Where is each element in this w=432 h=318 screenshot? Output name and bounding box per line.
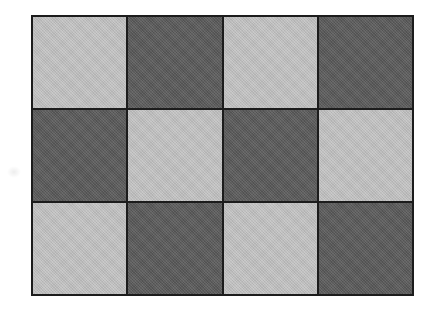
figure-canvas <box>0 0 432 318</box>
checker-cell-r3c4 <box>319 203 412 294</box>
checker-cell-r2c4 <box>319 110 412 201</box>
checker-cell-r1c1 <box>33 17 126 108</box>
scan-smudge <box>7 166 21 178</box>
checker-cell-r3c3 <box>224 203 317 294</box>
checker-cell-r1c3 <box>224 17 317 108</box>
checker-cell-r2c3 <box>224 110 317 201</box>
checker-cell-r1c2 <box>128 17 221 108</box>
checker-cell-r3c2 <box>128 203 221 294</box>
checker-cell-r2c1 <box>33 110 126 201</box>
checker-cell-r2c2 <box>128 110 221 201</box>
checkerboard <box>31 15 414 296</box>
checker-cell-r3c1 <box>33 203 126 294</box>
checker-cell-r1c4 <box>319 17 412 108</box>
